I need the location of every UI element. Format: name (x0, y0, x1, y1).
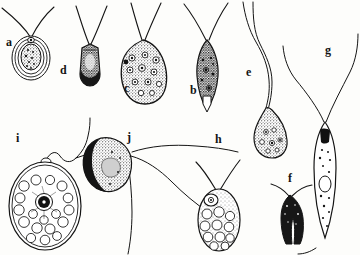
plate-drawing (0, 0, 360, 255)
organism-label-f: f (288, 172, 292, 184)
organism-label-c: c (124, 82, 129, 94)
organism-label-d: d (60, 64, 67, 76)
organism-label-h: h (215, 133, 222, 145)
organism-label-i: i (16, 132, 19, 144)
organism-label-a: a (6, 36, 12, 48)
organism-label-j: j (127, 131, 131, 143)
figure-plate: a d c b e g i j h f (0, 0, 360, 255)
organism-e (243, 2, 287, 158)
organism-f (271, 184, 312, 244)
organism-label-e: e (246, 66, 251, 78)
organism-i (9, 118, 94, 250)
organism-label-g: g (325, 44, 331, 56)
organism-label-b: b (190, 84, 197, 96)
organism-d (76, 6, 107, 86)
organism-h (196, 160, 240, 251)
